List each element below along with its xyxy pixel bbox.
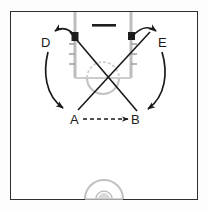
free-throw-circle-lower — [87, 78, 119, 94]
B-cross-cut-line — [70, 32, 137, 111]
lane-block-right — [128, 32, 135, 40]
E-down-cut-line — [148, 52, 165, 109]
court-diagram — [0, 0, 208, 212]
center-circle-inner-fill — [98, 193, 110, 199]
player-label-B: B — [131, 113, 140, 126]
diagram-page: D E A B — [0, 0, 208, 212]
court-markings — [69, 12, 137, 199]
movement-lines — [46, 28, 165, 119]
D-down-cut-line — [46, 52, 63, 108]
player-label-D: D — [41, 36, 50, 49]
player-label-A: A — [70, 113, 79, 126]
player-label-E: E — [158, 36, 167, 49]
backboard — [92, 24, 116, 27]
